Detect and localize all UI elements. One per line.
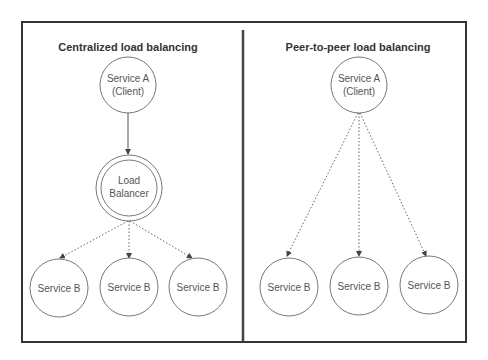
panel-centralized: Centralized load balancing Service A (Cl… <box>30 41 227 317</box>
node-label: Service A <box>107 73 150 84</box>
node-label: (Client) <box>112 86 144 97</box>
node-label: Load <box>118 175 140 186</box>
node-label: Service B <box>408 280 451 291</box>
node-label: Service B <box>177 282 220 293</box>
node-service-a: Service A (Client) <box>331 57 387 113</box>
arrow-dotted <box>130 221 192 258</box>
arrow-dotted <box>60 221 128 258</box>
node-label: Service B <box>268 282 311 293</box>
node-label: (Client) <box>343 86 375 97</box>
panel-peer-to-peer: Peer-to-peer load balancing Service A (C… <box>260 41 458 316</box>
arrow-dotted <box>360 113 426 256</box>
node-label: Service B <box>38 283 81 294</box>
node-service-b: Service B <box>330 257 388 315</box>
node-service-b: Service B <box>400 256 458 314</box>
node-label: Service B <box>108 282 151 293</box>
diagram: Centralized load balancing Service A (Cl… <box>0 0 488 360</box>
panel-title: Centralized load balancing <box>58 41 197 53</box>
node-service-b: Service B <box>260 258 318 316</box>
node-service-a: Service A (Client) <box>100 57 156 113</box>
node-service-b: Service B <box>30 259 88 317</box>
node-service-b: Service B <box>100 258 158 316</box>
node-label: Balancer <box>109 188 149 199</box>
node-load-balancer: Load Balancer <box>96 155 162 221</box>
node-service-b: Service B <box>169 258 227 316</box>
arrow-dotted <box>287 113 358 256</box>
node-label: Service B <box>338 281 381 292</box>
panel-title: Peer-to-peer load balancing <box>286 41 431 53</box>
node-label: Service A <box>338 73 381 84</box>
